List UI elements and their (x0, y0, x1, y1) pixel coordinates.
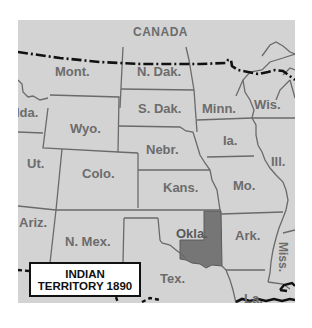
label-montana: Mont. (55, 65, 90, 78)
label-arizona: Ariz. (19, 216, 47, 229)
label-south-dakota: S. Dak. (138, 102, 181, 115)
legend-line-1: INDIAN (65, 268, 105, 280)
label-minnesota: Minn. (202, 102, 236, 115)
label-mississippi: Miss. (277, 242, 289, 272)
legend-line-2: TERRITORY 1890 (38, 280, 132, 292)
label-iowa: Ia. (223, 134, 237, 147)
label-oklahoma: Okla. (176, 227, 208, 240)
label-new-mexico: N. Mex. (65, 235, 111, 248)
label-nebraska: Nebr. (146, 143, 179, 156)
label-colorado: Colo. (82, 167, 115, 180)
label-missouri: Mo. (233, 179, 255, 192)
label-arkansas: Ark. (235, 229, 260, 242)
label-texas: Tex. (160, 272, 185, 285)
label-idaho: Ida. (18, 106, 38, 119)
label-wyoming: Wyo. (70, 122, 101, 135)
label-canada: CANADA (133, 26, 188, 38)
label-wisconsin: Wis. (254, 98, 281, 111)
label-louisiana: La. (244, 292, 263, 303)
label-kansas: Kans. (163, 181, 198, 194)
map-title-box: INDIAN TERRITORY 1890 (29, 262, 141, 297)
label-utah: Ut. (27, 157, 44, 170)
map-frame: CANADA Mont. N. Dak. S. Dak. Minn. Wis. … (18, 20, 295, 303)
label-north-dakota: N. Dak. (137, 65, 181, 78)
label-illinois: Ill. (271, 155, 285, 168)
map-boundaries (18, 20, 295, 303)
